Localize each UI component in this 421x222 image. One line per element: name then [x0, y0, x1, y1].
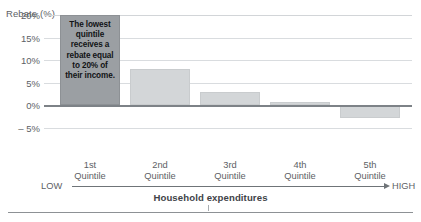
- bar-5th-quintile[interactable]: [340, 106, 400, 117]
- axis-high-label: HIGH: [392, 181, 415, 191]
- y-tick-label-20: 20%: [0, 10, 40, 21]
- bar-1st-quintile[interactable]: The lowest quintile receives a rebate eq…: [60, 15, 120, 105]
- x-category-4th: 4th Quintile: [270, 160, 330, 181]
- x-category-3rd: 3rd Quintile: [200, 160, 260, 181]
- bar-annotation-text: The lowest quintile receives a rebate eq…: [63, 20, 117, 81]
- expenditure-axis-line: [72, 186, 386, 187]
- x-category-4th-line1: 4th: [270, 160, 330, 171]
- x-category-4th-line2: Quintile: [270, 171, 330, 182]
- x-category-1st-line1: 1st: [60, 160, 120, 171]
- page-rule-tick: [208, 205, 209, 211]
- x-category-3rd-line1: 3rd: [200, 160, 260, 171]
- y-axis-tick-group: 20% 15% 10% 5% 0% – 5%: [0, 15, 40, 153]
- zero-baseline: [44, 105, 412, 107]
- x-category-2nd-line2: Quintile: [130, 171, 190, 182]
- page-bottom-rule: [8, 212, 413, 213]
- axis-low-label: LOW: [41, 181, 62, 191]
- y-tick-label-neg5: – 5%: [0, 123, 40, 134]
- x-axis-title: Household expenditures: [0, 192, 421, 203]
- gridline-neg5: [44, 128, 412, 129]
- y-tick-label-10: 10%: [0, 55, 40, 66]
- x-category-5th: 5th Quintile: [340, 160, 400, 181]
- x-category-2nd-line1: 2nd: [130, 160, 190, 171]
- x-category-1st-line2: Quintile: [60, 171, 120, 182]
- x-category-5th-line2: Quintile: [340, 171, 400, 182]
- y-tick-label-5: 5%: [0, 78, 40, 89]
- y-tick-label-0: 0%: [0, 100, 40, 111]
- x-category-2nd: 2nd Quintile: [130, 160, 190, 181]
- x-category-3rd-line2: Quintile: [200, 171, 260, 182]
- x-category-1st: 1st Quintile: [60, 160, 120, 181]
- bar-3rd-quintile[interactable]: [200, 92, 260, 106]
- bar-2nd-quintile[interactable]: [130, 69, 190, 105]
- plot-area: The lowest quintile receives a rebate eq…: [44, 15, 412, 153]
- y-tick-label-15: 15%: [0, 33, 40, 44]
- arrow-right-icon: [384, 183, 390, 189]
- x-category-5th-line1: 5th: [340, 160, 400, 171]
- chart-figure: Rebate (%) 20% 15% 10% 5% 0% – 5% The lo…: [0, 0, 421, 222]
